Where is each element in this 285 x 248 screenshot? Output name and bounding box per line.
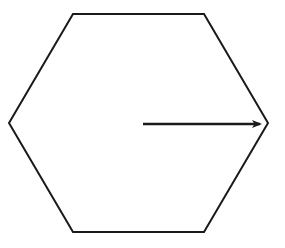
diagram-svg (0, 0, 285, 248)
hexagon-diagram (0, 0, 285, 248)
